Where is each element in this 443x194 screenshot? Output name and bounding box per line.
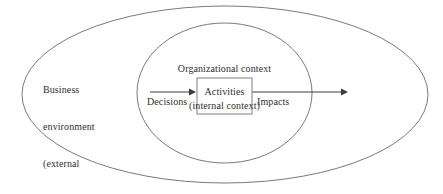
business-environment-label-line-1: Business [43, 84, 95, 96]
organizational-context-label-line-1: Organizational context [137, 63, 312, 75]
impacts-arrowhead [341, 89, 348, 96]
business-environment-label-line-3: (external [43, 158, 95, 170]
activities-label: Activities [197, 86, 252, 98]
impacts-label: Impacts [257, 96, 289, 108]
diagram-canvas: Business environment (external context) … [0, 0, 443, 194]
business-environment-label: Business environment (external context) [43, 60, 95, 194]
decisions-label: Decisions [147, 96, 187, 108]
business-environment-label-line-2: environment [43, 121, 95, 133]
